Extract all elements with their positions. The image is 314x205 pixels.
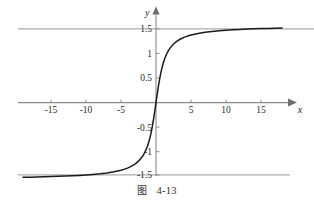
- x-tick-label--15: -15: [45, 105, 58, 115]
- x-tick-label-15: 15: [256, 105, 266, 115]
- x-axis-label: x: [297, 104, 303, 115]
- figure-caption: 图4-13: [0, 182, 314, 197]
- y-tick-label--0.5: -0.5: [137, 123, 152, 133]
- y-tick-label-0.5: 0.5: [140, 73, 152, 83]
- y-tick-label--1.5: -1.5: [137, 170, 152, 180]
- caption-number: 4-13: [157, 185, 177, 196]
- x-tick-label-5: 5: [189, 105, 194, 115]
- plot-canvas: -15 -10 -5 5 10 15 1.5 1 0.5 -0.5 -1 -1.…: [0, 0, 314, 205]
- caption-prefix: 图: [137, 185, 147, 196]
- x-tick-label--5: -5: [117, 105, 125, 115]
- figure-arctan-plot: -15 -10 -5 5 10 15 1.5 1 0.5 -0.5 -1 -1.…: [0, 0, 314, 205]
- x-tick-label--10: -10: [80, 105, 93, 115]
- y-tick-label-1: 1: [147, 49, 152, 59]
- y-axis-label: y: [144, 7, 150, 18]
- x-tick-label-10: 10: [221, 105, 231, 115]
- y-tick-label-1.5: 1.5: [140, 24, 152, 34]
